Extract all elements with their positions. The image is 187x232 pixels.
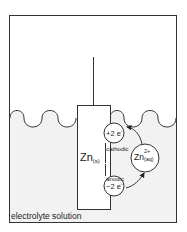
electron-loss-text: −2 e (106, 182, 121, 191)
ion-charge: 2+ (144, 149, 150, 155)
electron-gain-label: +2 e- (106, 129, 122, 138)
electron-gain-text: +2 e (106, 129, 121, 138)
electron-loss-label: −2 e- (106, 182, 122, 191)
cathodic-current-label: Icathodic (104, 142, 129, 152)
electrochemical-cell-diagram (0, 0, 187, 232)
electrode-symbol: Zn (80, 151, 93, 163)
ion-label: Zn2+(aq) (134, 153, 154, 162)
electron-loss-sup: - (121, 181, 123, 187)
electrolyte-label: electrolyte solution (11, 212, 81, 221)
electron-gain-sup: - (121, 128, 123, 134)
ion-state: (aq) (144, 157, 154, 163)
electrode-state: (s) (93, 158, 100, 164)
ion-symbol: Zn (134, 152, 144, 162)
electrode-label: Zn(s) (80, 152, 100, 164)
cathodic-subscript: cathodic (106, 146, 128, 152)
